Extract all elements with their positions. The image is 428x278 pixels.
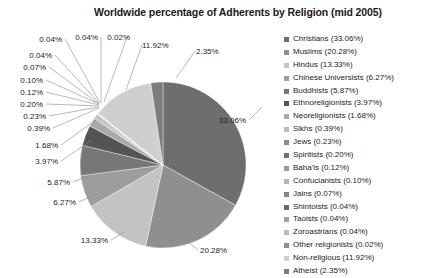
pie-slices — [80, 82, 246, 248]
legend-item-label: Chinese Universists (6.27%) — [293, 72, 394, 85]
slice-percent-label: 0.12% — [20, 88, 43, 97]
slice-percent-label: 3.97% — [35, 157, 58, 166]
slice-percent-label: 0.20% — [20, 100, 43, 109]
slice-percent-label: 0.04% — [75, 33, 98, 42]
legend-item[interactable]: Zoroastrians (0.04%) — [284, 226, 428, 239]
legend-item[interactable]: Non-religious (11.92%) — [284, 252, 428, 265]
legend-item[interactable]: Atheist (2.35%) — [284, 265, 428, 278]
legend-swatch-icon — [284, 63, 289, 68]
legend-item[interactable]: Jews (0.23%) — [284, 136, 428, 149]
legend-swatch-icon — [284, 269, 289, 274]
legend-item[interactable]: Hindus (13.33%) — [284, 59, 428, 72]
legend-item-label: Other religionists (0.02%) — [293, 239, 383, 252]
legend-item-label: Jains (0.07%) — [293, 188, 342, 201]
legend-swatch-icon — [284, 76, 289, 81]
legend-item-label: Ethnoreligionists (3.97%) — [293, 97, 382, 110]
legend-swatch-icon — [284, 217, 289, 222]
slice-percent-label: 0.04% — [29, 51, 52, 60]
legend-swatch-icon — [284, 114, 289, 119]
legend-item[interactable]: Taoists (0.04%) — [284, 213, 428, 226]
legend-swatch-icon — [284, 127, 289, 132]
legend-item-label: Neoreligionists (1.68%) — [293, 110, 376, 123]
slice-percent-label: 11.92% — [142, 41, 169, 50]
slice-percent-label: 1.68% — [35, 141, 58, 150]
legend-item-label: Taoists (0.04%) — [293, 213, 348, 226]
leader-line — [176, 51, 195, 78]
legend-item-label: Muslims (20.28%) — [293, 46, 357, 59]
legend-swatch-icon — [284, 50, 289, 55]
leader-line — [65, 39, 100, 103]
legend-swatch-icon — [284, 243, 289, 248]
legend-item[interactable]: Other religionists (0.02%) — [284, 239, 428, 252]
slice-percent-label: 0.23% — [23, 112, 46, 121]
legend-item-label: Hindus (13.33%) — [293, 59, 353, 72]
legend-item[interactable]: Muslims (20.28%) — [284, 46, 428, 59]
legend-item[interactable]: Shintoists (0.04%) — [284, 201, 428, 214]
leader-line — [49, 67, 99, 104]
legend-swatch-icon — [284, 230, 289, 235]
slice-percent-label: 20.28% — [200, 246, 227, 255]
legend-item[interactable]: Baha'is (0.12%) — [284, 162, 428, 175]
legend-item[interactable]: Neoreligionists (1.68%) — [284, 110, 428, 123]
legend-swatch-icon — [284, 256, 289, 261]
legend-swatch-icon — [284, 192, 289, 197]
legend-swatch-icon — [284, 101, 289, 106]
legend-item-label: Jews (0.23%) — [293, 136, 341, 149]
legend-item[interactable]: Buddhists (5.87%) — [284, 85, 428, 98]
slice-percent-label: 13.33% — [81, 236, 108, 245]
legend-swatch-icon — [284, 37, 289, 42]
legend-item[interactable]: Jains (0.07%) — [284, 188, 428, 201]
legend-item-label: Confucianists (0.10%) — [293, 175, 371, 188]
legend-item[interactable]: Ethnoreligionists (3.97%) — [284, 97, 428, 110]
slice-percent-label: 0.10% — [20, 76, 43, 85]
legend-item-label: Atheist (2.35%) — [293, 265, 348, 278]
legend-item-label: Spiritists (0.20%) — [293, 149, 353, 162]
slice-percent-label: 6.27% — [53, 198, 76, 207]
slice-percent-label: 33.06% — [219, 116, 246, 125]
slice-percent-label: 0.39% — [27, 124, 50, 133]
legend-swatch-icon — [284, 179, 289, 184]
legend-item-label: Sikhs (0.39%) — [293, 123, 343, 136]
legend-item-label: Buddhists (5.87%) — [293, 85, 358, 98]
legend-item-label: Shintoists (0.04%) — [293, 201, 358, 214]
leader-line — [46, 104, 99, 106]
legend-swatch-icon — [284, 153, 289, 158]
leader-line — [249, 107, 262, 120]
legend-swatch-icon — [284, 205, 289, 210]
slice-percent-label: 2.35% — [196, 47, 219, 56]
legend-swatch-icon — [284, 166, 289, 171]
legend-item[interactable]: Confucianists (0.10%) — [284, 175, 428, 188]
slice-percent-label: 5.87% — [47, 178, 70, 187]
legend-item-label: Christians (33.06%) — [293, 33, 363, 46]
legend-item-label: Baha'is (0.12%) — [293, 162, 349, 175]
leader-line — [46, 80, 99, 104]
legend-item[interactable]: Sikhs (0.39%) — [284, 123, 428, 136]
slice-percent-label: 0.02% — [107, 33, 130, 42]
legend-item[interactable]: Christians (33.06%) — [284, 33, 428, 46]
legend-item-label: Non-religious (11.92%) — [293, 252, 374, 265]
leader-line — [126, 45, 142, 90]
legend-item[interactable]: Spiritists (0.20%) — [284, 149, 428, 162]
legend-swatch-icon — [284, 89, 289, 94]
legend-item[interactable]: Chinese Universists (6.27%) — [284, 72, 428, 85]
legend-item-label: Zoroastrians (0.04%) — [293, 226, 368, 239]
slice-percent-label: 0.04% — [39, 35, 62, 44]
legend-swatch-icon — [284, 140, 289, 145]
chart-legend: Christians (33.06%)Muslims (20.28%)Hindu… — [284, 33, 428, 278]
slice-percent-label: 0.07% — [23, 63, 46, 72]
